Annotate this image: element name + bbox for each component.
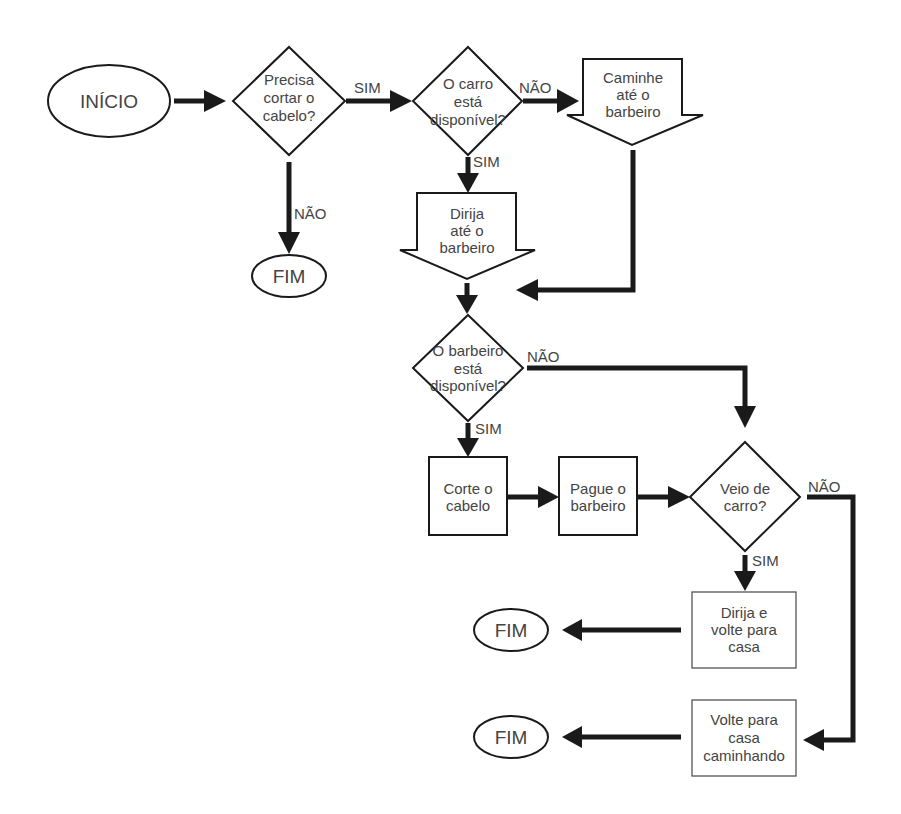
node-cut-line: Corte o (443, 480, 492, 497)
connector-walk-to-barber (516, 150, 633, 301)
node-q-car-line: O carro (443, 75, 493, 92)
label-barber-yes: SIM (475, 420, 502, 437)
node-q-came-by-car-line: Veio de (720, 480, 770, 497)
node-drive-line: Dirija (450, 205, 485, 222)
node-pay-line: Pague o (570, 480, 626, 497)
node-q-car: O carro está disponível? (413, 47, 522, 155)
node-walk-home-line: Volte para (710, 711, 778, 728)
node-end-walk: FIM (474, 716, 548, 758)
node-q-haircut-line: Precisa (264, 71, 315, 88)
connector-came-car-no (803, 497, 853, 751)
node-end-label: FIM (273, 266, 306, 287)
node-walk-line: até o (616, 86, 649, 103)
connector-drive-home-to-end (562, 619, 681, 641)
node-walk-home-line: casa (728, 729, 760, 746)
node-drive-home-line: Dirija e (721, 604, 768, 621)
node-q-came-by-car: Veio de carro? (690, 442, 800, 551)
node-end-label: FIM (495, 727, 528, 748)
label-car-no: NÃO (519, 79, 552, 96)
node-q-barber: O barbeiro está disponível? (413, 315, 523, 421)
node-walk-line: barbeiro (605, 103, 660, 120)
node-q-haircut: Precisa cortar o cabelo? (233, 47, 345, 155)
node-drive-home-line: casa (728, 638, 760, 655)
node-end-no-haircut: FIM (252, 255, 326, 297)
node-walk-home: Volte para casa caminhando (692, 700, 796, 776)
label-came-car-no: NÃO (808, 478, 841, 495)
label-haircut-no: NÃO (294, 205, 327, 222)
node-drive-home-line: volte para (711, 621, 778, 638)
connector-barber-no (527, 368, 756, 428)
node-cut-line: cabelo (446, 497, 490, 514)
connector-walk-home-to-end (562, 726, 681, 748)
node-q-came-by-car-line: carro? (724, 497, 767, 514)
node-start: INÍCIO (48, 65, 170, 137)
label-car-yes: SIM (473, 153, 500, 170)
connector-start-to-q-haircut (174, 90, 226, 112)
connector-cut-to-pay (507, 486, 559, 508)
node-start-label: INÍCIO (80, 91, 138, 112)
label-haircut-yes: SIM (354, 79, 381, 96)
connector-drive-to-q-barber (456, 283, 478, 314)
node-q-barber-line: disponível? (430, 377, 506, 394)
node-q-car-line: está (454, 93, 483, 110)
node-walk: Caminhe até o barbeiro (567, 59, 703, 145)
node-end-drive: FIM (474, 609, 548, 651)
node-cut: Corte o cabelo (429, 457, 507, 535)
node-drive: Dirija até o barbeiro (400, 193, 535, 279)
node-pay: Pague o barbeiro (559, 457, 637, 535)
connector-pay-to-q-came-by-car (637, 486, 690, 508)
node-q-barber-line: O barbeiro (433, 342, 504, 359)
node-walk-home-line: caminhando (703, 747, 785, 764)
node-q-barber-line: está (454, 360, 483, 377)
flowchart-canvas: SIM NÃO NÃO SIM NÃO SIM NÃO SIM INÍCIO P… (0, 0, 901, 814)
node-q-haircut-line: cabelo? (263, 107, 316, 124)
node-drive-home: Dirija e volte para casa (692, 592, 796, 668)
node-pay-line: barbeiro (570, 497, 625, 514)
node-q-car-line: disponível? (430, 111, 506, 128)
label-came-car-yes: SIM (752, 552, 779, 569)
node-end-label: FIM (495, 620, 528, 641)
node-drive-line: até o (450, 222, 483, 239)
node-drive-line: barbeiro (439, 239, 494, 256)
node-q-haircut-line: cortar o (264, 89, 315, 106)
node-walk-line: Caminhe (603, 69, 663, 86)
label-barber-no: NÃO (527, 348, 560, 365)
